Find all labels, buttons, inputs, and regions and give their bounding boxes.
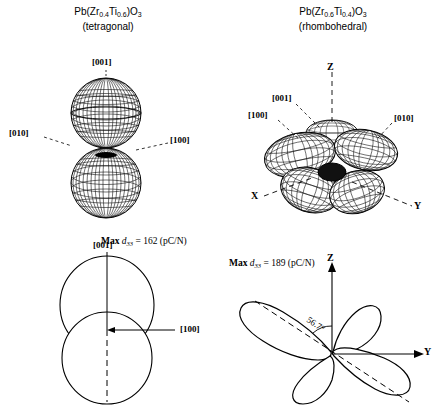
lobe-lower-left-bottom-right xyxy=(293,356,334,404)
figure-canvas: Pb(Zr0.4Ti0.6)O3 (tetragonal) Pb(Zr0.6Ti… xyxy=(0,0,441,405)
max-d33-bottom-right: Max d33 = 189 (pC/N) xyxy=(229,258,315,269)
max-value-bottom-right: = 189 (pC/N) xyxy=(263,258,314,268)
label-y-bottom-right: Y xyxy=(424,346,431,357)
axis-y-arrowhead xyxy=(414,350,424,358)
max-prefix-bottom-right: Max xyxy=(229,258,247,268)
bottom-right-polar-plot xyxy=(0,0,441,405)
label-z-bottom-right: Z xyxy=(327,252,334,263)
axis-z-arrowhead xyxy=(328,262,336,272)
lobe-lower-right-bottom-right xyxy=(332,348,410,395)
max-subscript-bottom-right: 33 xyxy=(255,262,262,269)
